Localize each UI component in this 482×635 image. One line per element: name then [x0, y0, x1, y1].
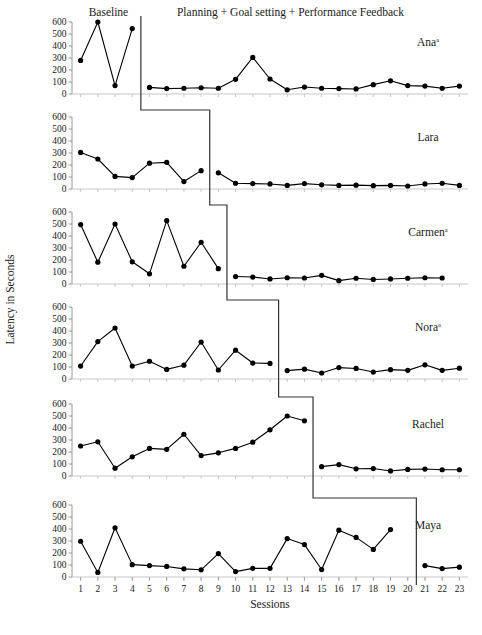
intervention-point [405, 368, 410, 373]
y-tick-label: 500 [52, 314, 67, 324]
y-tick-label: 200 [52, 255, 67, 265]
intervention-point [216, 86, 221, 91]
intervention-point [302, 84, 307, 89]
baseline-point [181, 363, 186, 368]
y-tick-label: 0 [62, 184, 67, 194]
baseline-point [199, 168, 204, 173]
intervention-point [405, 83, 410, 88]
baseline-point [147, 563, 152, 568]
intervention-point [353, 466, 358, 471]
intervention-point [250, 55, 255, 60]
x-tick-label: 23 [455, 584, 465, 594]
intervention-point [250, 181, 255, 186]
baseline-point [112, 325, 117, 330]
y-tick-label: 100 [52, 172, 67, 182]
series-label-rachel: Rachel [412, 418, 444, 430]
x-tick-label: 7 [182, 584, 187, 594]
baseline-point [95, 439, 100, 444]
intervention-point [336, 462, 341, 467]
intervention-point [233, 181, 238, 186]
y-tick-label: 400 [52, 231, 67, 241]
series-label-nora: Noraa [415, 321, 441, 333]
intervention-point [422, 563, 427, 568]
baseline-line [81, 328, 270, 370]
y-tick-label: 300 [52, 53, 67, 63]
baseline-point [130, 175, 135, 180]
baseline-point [112, 174, 117, 179]
baseline-point [181, 432, 186, 437]
x-axis-title: Sessions [250, 598, 290, 610]
baseline-point [95, 260, 100, 265]
baseline-point [78, 539, 83, 544]
intervention-point [353, 86, 358, 91]
panel-maya: 0100200300400500600Maya [52, 500, 468, 582]
baseline-point [112, 466, 117, 471]
baseline-point [95, 156, 100, 161]
baseline-line [81, 528, 391, 573]
intervention-point [440, 181, 445, 186]
x-tick-label: 13 [282, 584, 292, 594]
y-tick-label: 100 [52, 560, 67, 570]
intervention-point [457, 366, 462, 371]
baseline-point [112, 525, 117, 530]
baseline-point [267, 566, 272, 571]
intervention-point [336, 183, 341, 188]
intervention-point [422, 181, 427, 186]
intervention-point [285, 275, 290, 280]
intervention-point [388, 367, 393, 372]
x-tick-label: 8 [199, 584, 204, 594]
intervention-point [422, 83, 427, 88]
x-tick-label: 10 [231, 584, 241, 594]
baseline-point [164, 367, 169, 372]
baseline-point [78, 363, 83, 368]
baseline-point [112, 221, 117, 226]
intervention-point [285, 87, 290, 92]
intervention-point [457, 565, 462, 570]
y-tick-label: 200 [52, 548, 67, 558]
y-tick-label: 400 [52, 524, 67, 534]
phase-line-path [141, 16, 416, 585]
phase-headers: BaselinePlanning + Goal setting + Perfor… [89, 6, 405, 19]
baseline-point [250, 566, 255, 571]
intervention-point [285, 183, 290, 188]
y-tick-label: 200 [52, 350, 67, 360]
intervention-point [457, 183, 462, 188]
intervention-point [371, 277, 376, 282]
intervention-point [147, 85, 152, 90]
intervention-point [336, 365, 341, 370]
baseline-point [181, 566, 186, 571]
x-tick-label: 12 [265, 584, 275, 594]
baseline-point [233, 348, 238, 353]
intervention-point [388, 183, 393, 188]
baseline-point [147, 446, 152, 451]
intervention-point [267, 181, 272, 186]
baseline-point [216, 551, 221, 556]
panel-lara: 0100200300400500600Lara [52, 112, 468, 194]
intervention-point [164, 86, 169, 91]
y-tick-label: 0 [62, 279, 67, 289]
intervention-point [267, 76, 272, 81]
intervention-point [181, 86, 186, 91]
x-tick-label: 6 [164, 584, 169, 594]
baseline-point [199, 567, 204, 572]
y-tick-label: 400 [52, 326, 67, 336]
intervention-point [388, 468, 393, 473]
intervention-point [319, 182, 324, 187]
y-tick-label: 600 [52, 207, 67, 217]
baseline-point [233, 569, 238, 574]
intervention-point [233, 77, 238, 82]
baseline-line [81, 416, 305, 468]
baseline-point [181, 179, 186, 184]
intervention-point [405, 183, 410, 188]
baseline-point [302, 542, 307, 547]
y-tick-label: 500 [52, 219, 67, 229]
baseline-point [285, 413, 290, 418]
intervention-point [371, 183, 376, 188]
intervention-point [233, 274, 238, 279]
y-tick-label: 0 [62, 89, 67, 99]
chart-canvas: 0100200300400500600Anaa01002003004005006… [0, 0, 482, 635]
intervention-point [319, 86, 324, 91]
y-tick-label: 200 [52, 65, 67, 75]
y-tick-label: 600 [52, 17, 67, 27]
baseline-point [130, 363, 135, 368]
